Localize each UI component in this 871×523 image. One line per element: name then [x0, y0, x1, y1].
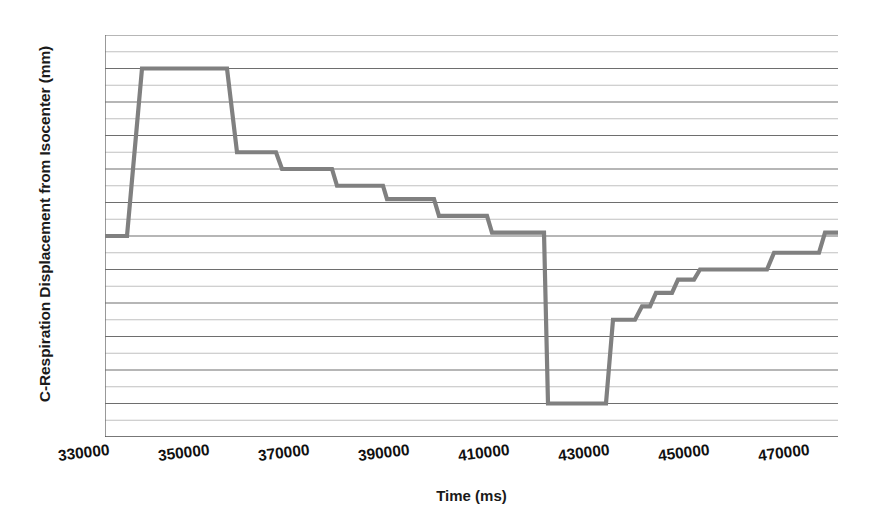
- plot-area: [105, 35, 838, 437]
- x-tick-label: 450000: [657, 441, 711, 465]
- chart-figure: C-Respiration Displacement from Isocente…: [0, 0, 871, 523]
- x-tick-label: 330000: [57, 441, 111, 465]
- x-tick-label: 470000: [757, 441, 811, 465]
- x-tick-label: 410000: [457, 441, 511, 465]
- y-axis-title: C-Respiration Displacement from Isocente…: [36, 9, 54, 439]
- plot-canvas: [105, 35, 838, 437]
- x-tick-label: 370000: [257, 441, 311, 465]
- x-tick-label: 350000: [157, 441, 211, 465]
- x-tick-label: 430000: [557, 441, 611, 465]
- x-tick-label: 390000: [357, 441, 411, 465]
- x-axis-title: Time (ms): [105, 487, 838, 504]
